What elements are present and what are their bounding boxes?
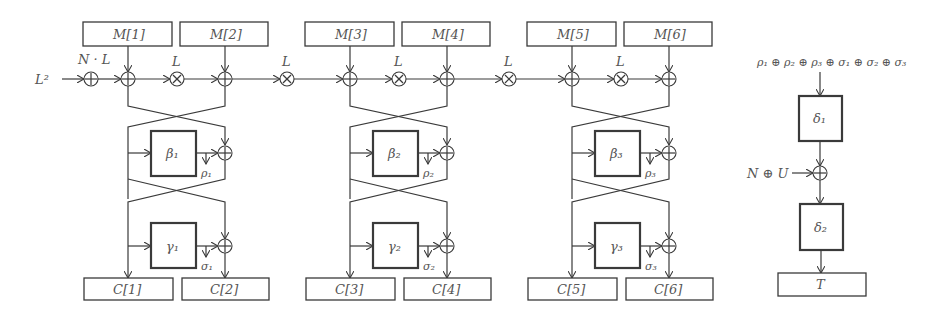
checksum-label: ρ₁ ⊕ ρ₂ ⊕ ρ₃ ⊕ σ₁ ⊕ σ₂ ⊕ σ₃ [756, 56, 906, 69]
sigma-label: σ₂ [423, 260, 435, 273]
delta1-label: δ₁ [813, 111, 826, 126]
gamma-label: γ₁ [166, 239, 179, 254]
ciphertext-label: C[4] [432, 282, 461, 297]
ciphertext-label: C[2] [210, 282, 239, 297]
message-label: M[4] [431, 27, 465, 42]
beta-label: β₁ [165, 146, 179, 161]
sigma-label: σ₁ [201, 260, 213, 273]
message-label: M[2] [209, 27, 243, 42]
ciphertext-label: C[5] [557, 282, 586, 297]
gamma-label: γ₂ [388, 239, 401, 254]
nonce-label: N · L [77, 52, 110, 67]
tag-label: T [816, 277, 826, 292]
beta-label: β₂ [387, 146, 401, 161]
message-label: M[1] [112, 27, 146, 42]
message-label: M[3] [334, 27, 368, 42]
rho-label: ρ₂ [422, 167, 434, 180]
rho-label: ρ₃ [644, 167, 656, 180]
ciphertext-label: C[6] [654, 282, 683, 297]
mult-label: L [281, 54, 291, 69]
encryption-diagram: L² N · L [0, 0, 952, 313]
rho-label: ρ₁ [200, 167, 212, 180]
gamma-label: γ₃ [610, 239, 623, 254]
message-label: M[6] [653, 27, 687, 42]
sigma-label: σ₃ [645, 260, 657, 273]
xor-op-nonce [84, 72, 98, 86]
tag-path: ρ₁ ⊕ ρ₂ ⊕ ρ₃ ⊕ σ₁ ⊕ σ₂ ⊕ σ₃ δ₁ N ⊕ U δ₂ … [746, 56, 906, 296]
message-label: M[5] [556, 27, 590, 42]
mult-label: L [171, 54, 181, 69]
input-label: L² [34, 72, 49, 87]
beta-label: β₃ [609, 146, 623, 161]
mult-label: L [615, 54, 625, 69]
side-input-label: N ⊕ U [746, 166, 790, 181]
ciphertext-label: C[3] [335, 282, 364, 297]
mult-label: L [393, 54, 403, 69]
mult-label: L [503, 54, 513, 69]
ciphertext-label: C[1] [113, 282, 142, 297]
delta2-label: δ₂ [814, 220, 827, 235]
